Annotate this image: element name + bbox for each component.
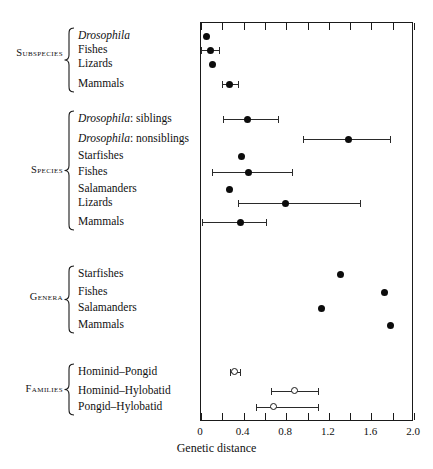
axis-label-0: 0	[180, 425, 220, 437]
axis-tick-top	[393, 23, 394, 30]
error-bar-cap	[318, 388, 319, 395]
axis-tick-bottom	[222, 413, 223, 420]
row-label: Drosophila: nonsiblings	[78, 133, 189, 145]
axis-tick-top	[265, 23, 266, 30]
axis-tick-top	[350, 23, 351, 30]
group-brace	[63, 27, 77, 93]
row-label: Hominid–Pongid	[78, 366, 157, 378]
error-bar-cap	[266, 219, 267, 226]
error-bar-cap	[278, 116, 279, 123]
axis-label-2-0: 2.0	[393, 425, 433, 437]
error-bar-cap	[318, 404, 319, 411]
error-bar	[202, 222, 266, 223]
row-label: Drosophila: siblings	[78, 113, 172, 125]
data-point-filled	[318, 305, 325, 312]
row-label: Pongid–Hylobatid	[78, 401, 162, 413]
error-bar	[238, 203, 359, 204]
axis-tick-bottom	[393, 413, 394, 420]
data-point-filled	[387, 322, 394, 329]
group-title-subspecies: Subspecies	[0, 47, 63, 58]
data-point-filled	[203, 33, 210, 40]
axis-tick-top	[222, 23, 223, 30]
axis-tick-top	[414, 23, 415, 30]
error-bar-cap	[292, 169, 293, 176]
row-label: Salamanders	[78, 183, 137, 195]
row-label: Salamanders	[78, 302, 137, 314]
row-label: Fishes	[78, 44, 107, 56]
error-bar-cap	[238, 81, 239, 88]
axis-tick-top	[286, 23, 287, 30]
axis-label-1-6: 1.6	[350, 425, 390, 437]
data-point-filled	[237, 219, 244, 226]
error-bar-cap	[360, 200, 361, 207]
row-label: Fishes	[78, 286, 107, 298]
error-bar-cap	[390, 136, 391, 143]
error-bar-cap	[222, 81, 223, 88]
axis-label-0-8: 0.8	[265, 425, 305, 437]
axis-tick-top	[244, 23, 245, 30]
data-point-filled	[238, 153, 245, 160]
error-bar-cap	[201, 47, 202, 54]
error-bar-cap	[223, 116, 224, 123]
row-label: Hominid–Hylobatid	[78, 385, 171, 397]
axis-tick-top	[329, 23, 330, 30]
data-point-filled	[282, 200, 289, 207]
group-brace	[63, 265, 77, 334]
axis-label-1-2: 1.2	[308, 425, 348, 437]
data-point-filled	[381, 289, 388, 296]
axis-label-0-4: 0.4	[223, 425, 263, 437]
axis-tick-bottom	[265, 413, 266, 420]
row-label: Starfishes	[78, 150, 123, 162]
row-label: Drosophila	[78, 30, 130, 42]
error-bar-cap	[212, 169, 213, 176]
error-bar	[256, 407, 318, 408]
genetic-distance-figure: Genetic distance 00.40.81.21.62.0Subspec…	[0, 0, 433, 469]
data-point-filled	[244, 116, 251, 123]
error-bar-cap	[202, 219, 203, 226]
row-label: Mammals	[78, 319, 124, 331]
axis-tick-bottom	[371, 413, 372, 420]
group-title-families: Families	[0, 383, 63, 394]
error-bar-cap	[256, 404, 257, 411]
axis-tick-bottom	[286, 413, 287, 420]
data-point-filled	[209, 61, 216, 68]
x-axis-title: Genetic distance	[0, 441, 433, 456]
axis-tick-bottom	[329, 413, 330, 420]
error-bar-cap	[240, 369, 241, 376]
row-label: Lizards	[78, 197, 112, 209]
axis-tick-bottom	[350, 413, 351, 420]
axis-tick-bottom	[414, 413, 415, 420]
axis-tick-bottom	[244, 413, 245, 420]
error-bar-cap	[219, 47, 220, 54]
data-point-filled	[226, 81, 233, 88]
error-bar-cap	[303, 136, 304, 143]
group-title-genera: Genera	[0, 291, 63, 302]
data-point-filled	[207, 47, 214, 54]
data-point-filled	[226, 186, 233, 193]
row-label: Fishes	[78, 166, 107, 178]
row-label: Mammals	[78, 216, 124, 228]
axis-tick-top	[201, 23, 202, 30]
axis-tick-bottom	[201, 413, 202, 420]
row-label: Mammals	[78, 78, 124, 90]
error-bar-cap	[238, 200, 239, 207]
axis-tick-top	[308, 23, 309, 30]
row-label: Starfishes	[78, 268, 123, 280]
data-point-filled	[345, 136, 352, 143]
error-bar-cap	[271, 388, 272, 395]
group-title-species: Species	[0, 164, 63, 175]
group-brace	[63, 110, 77, 231]
row-label: Lizards	[78, 58, 112, 70]
axis-tick-top	[371, 23, 372, 30]
axis-tick-bottom	[308, 413, 309, 420]
data-point-filled	[337, 271, 344, 278]
group-brace	[63, 363, 77, 416]
